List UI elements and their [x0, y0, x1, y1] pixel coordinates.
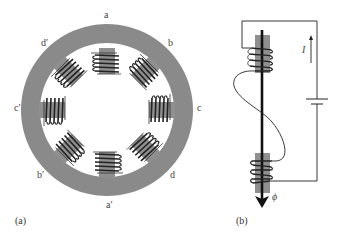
- pole-label-d-prime: d′: [41, 37, 48, 48]
- pole-a: [91, 48, 121, 74]
- pole-label-a-prime: a′: [106, 199, 113, 210]
- series-coil-circuit: I ϕ (b): [234, 21, 328, 227]
- circuit-wire: [242, 21, 317, 181]
- stator-ring-diagram: a b c d a′ b′ c′ d′ (a): [14, 9, 202, 227]
- panel-label-a: (a): [15, 215, 26, 227]
- figure-canvas: a b c d a′ b′ c′ d′ (a) I ϕ: [0, 0, 344, 237]
- pole-label-c-prime: c′: [14, 102, 21, 113]
- panel-label-b: (b): [236, 215, 248, 227]
- pole-c-prime: [39, 96, 65, 126]
- crossover-wire: [234, 71, 285, 161]
- current-label: I: [301, 44, 306, 55]
- current-arrow-icon: [309, 35, 313, 63]
- pole-label-d: d: [170, 169, 175, 180]
- pole-a-prime: [93, 152, 123, 178]
- battery-icon: [306, 99, 328, 104]
- pole-label-c: c: [197, 102, 202, 113]
- pole-c: [149, 94, 175, 124]
- pole-label-b-prime: b′: [37, 169, 44, 180]
- pole-label-b: b: [168, 37, 173, 48]
- pole-label-a: a: [104, 9, 109, 20]
- flux-label: ϕ: [272, 191, 277, 202]
